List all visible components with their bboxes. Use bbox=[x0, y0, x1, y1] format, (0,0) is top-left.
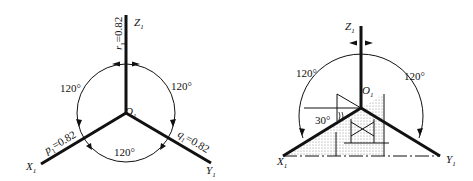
arrow-icon bbox=[299, 128, 305, 136]
arrow-icon bbox=[349, 41, 357, 46]
origin-label: O1 bbox=[125, 105, 136, 120]
angle-label-bottom: 120° bbox=[114, 146, 135, 158]
angle-label-upper-left: 120° bbox=[60, 82, 81, 94]
x-axis-label: X1 bbox=[25, 160, 36, 175]
right-axonometric-diagram: Z1 X1 Y1 O1 120° 120° 30° bbox=[276, 20, 456, 170]
z-axis-label: Z1 bbox=[134, 16, 144, 31]
arrow-icon bbox=[86, 143, 92, 150]
angle-label-30: 30° bbox=[315, 114, 330, 126]
construction-line bbox=[337, 94, 361, 108]
arrow-icon bbox=[417, 128, 423, 136]
y-axis-label: Y1 bbox=[206, 164, 216, 179]
arrow-icon bbox=[76, 119, 82, 127]
arrow-icon bbox=[170, 119, 176, 127]
angle-label-upper-left: 120° bbox=[296, 67, 317, 79]
origin-label: O1 bbox=[362, 84, 373, 99]
shaded-region bbox=[283, 108, 384, 156]
isometric-axes-figure: Z1 X1 Y1 O1 r1=0.82 p1=0.82 q1=0.82 120°… bbox=[0, 0, 473, 181]
x-axis-label: X1 bbox=[276, 155, 287, 170]
arrow-icon bbox=[365, 41, 373, 46]
z-axis-label: Z1 bbox=[345, 20, 355, 35]
y-axis-label: Y1 bbox=[446, 153, 456, 168]
angle-label-upper-right: 120° bbox=[404, 70, 425, 82]
angle-label-upper-right: 120° bbox=[171, 80, 192, 92]
arrow-icon bbox=[160, 143, 166, 150]
left-axonometric-diagram: Z1 X1 Y1 O1 r1=0.82 p1=0.82 q1=0.82 120°… bbox=[25, 15, 216, 179]
